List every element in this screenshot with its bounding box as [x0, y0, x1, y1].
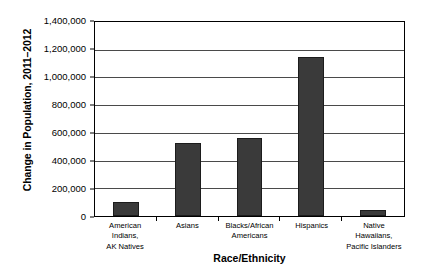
bar[interactable] [237, 138, 263, 216]
y-tick-label: 400,000 [52, 156, 86, 166]
x-axis-tick-labels: American Indians,AK NativesAsiansBlacks/… [94, 221, 405, 252]
y-axis-title: Change in Population, 2011–2012 [21, 10, 33, 210]
y-axis-tick-labels: 0200,000400,000600,000800,0001,000,0001,… [33, 21, 90, 217]
bar[interactable] [113, 202, 139, 216]
bar[interactable] [175, 143, 201, 216]
y-tick-label: 1,400,000 [44, 16, 86, 26]
bar[interactable] [360, 210, 386, 216]
bar-slot [95, 22, 157, 216]
x-tick-label: Native Hawaiians,Pacific Islanders [343, 221, 405, 252]
y-tick-label: 0 [81, 212, 86, 222]
bar-slot [342, 22, 404, 216]
y-tick-label: 1,200,000 [44, 44, 86, 54]
bar-slot [157, 22, 219, 216]
y-tick-label: 600,000 [52, 128, 86, 138]
y-tick-label: 1,000,000 [44, 72, 86, 82]
plot-area [94, 21, 405, 217]
x-axis-title: Race/Ethnicity [94, 252, 405, 264]
bars-layer [95, 22, 404, 216]
x-tick-label: Asians [156, 221, 218, 252]
y-tick-label: 800,000 [52, 100, 86, 110]
bar-slot [280, 22, 342, 216]
bar-chart: Change in Population, 2011–2012 0200,000… [0, 0, 432, 276]
x-tick-label: Blacks/AfricanAmericans [218, 221, 280, 252]
x-tick-label: Hispanics [281, 221, 343, 252]
bar-slot [219, 22, 281, 216]
x-tick-label: American Indians,AK Natives [94, 221, 156, 252]
y-tick-label: 200,000 [52, 184, 86, 194]
bar[interactable] [298, 57, 324, 216]
